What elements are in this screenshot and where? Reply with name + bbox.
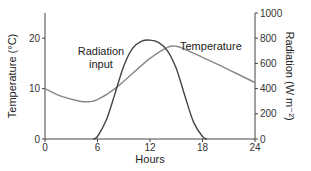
tick-label: 200	[260, 108, 277, 119]
tick-label: 800	[260, 33, 277, 44]
tick-label: 1000	[260, 8, 283, 19]
x-axis-title: Hours	[135, 153, 165, 165]
tick-label: 20	[29, 33, 41, 44]
tick-label: 0	[260, 134, 266, 145]
radiation-label: Radiation	[78, 45, 124, 57]
tick-label: 18	[197, 142, 209, 153]
tick-label: 600	[260, 58, 277, 69]
temperature-line	[45, 46, 255, 102]
axes	[42, 13, 258, 142]
tick-label: 400	[260, 83, 277, 94]
tick-label: 12	[144, 142, 156, 153]
chart: 061218240102002004006008001000 Radiation…	[0, 0, 311, 171]
tick-label: 0	[42, 142, 48, 153]
y-axis-title-right: Radiation (W m⁻²)	[284, 31, 296, 120]
tick-label: 6	[95, 142, 101, 153]
tick-label: 0	[34, 134, 40, 145]
tick-labels: 061218240102002004006008001000	[29, 8, 283, 154]
temperature-label: Temperature	[180, 40, 242, 52]
tick-label: 10	[29, 83, 41, 94]
y-axis-title-left: Temperature (°C)	[6, 34, 18, 118]
radiation-label-2: input	[89, 58, 113, 70]
